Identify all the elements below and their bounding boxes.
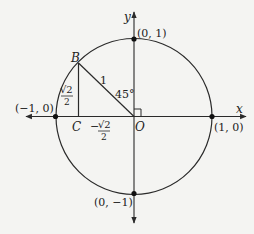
label-right-point: (1, 0): [214, 121, 244, 134]
right-angle-mark: [134, 109, 141, 117]
label-B: B: [70, 51, 80, 65]
vertical-leg-fraction: √2 2: [60, 84, 73, 107]
horizontal-leg-fraction: − √2 2: [90, 119, 111, 142]
hypotenuse-length: 1: [100, 74, 107, 87]
vertical-leg-denominator: 2: [64, 97, 70, 107]
y-axis-label: y: [123, 10, 131, 24]
angle-label: 45°: [115, 88, 135, 101]
label-top-point: (0, 1): [137, 27, 167, 40]
x-axis-label: x: [236, 102, 243, 116]
label-bottom-point: (0, −1): [94, 196, 133, 209]
point-0-1: [131, 36, 136, 41]
label-left-point: (−1, 0): [15, 102, 54, 115]
label-C: C: [72, 120, 81, 134]
horizontal-leg-denominator: 2: [101, 132, 107, 142]
unit-circle-diagram: y x (0, 1) (0, −1) (−1, 0) (1, 0) B C O …: [0, 0, 254, 234]
horizontal-leg-numerator: √2: [98, 119, 111, 130]
label-O: O: [135, 120, 145, 134]
vertical-leg-numerator: √2: [60, 84, 73, 95]
point-1-0: [209, 114, 214, 119]
